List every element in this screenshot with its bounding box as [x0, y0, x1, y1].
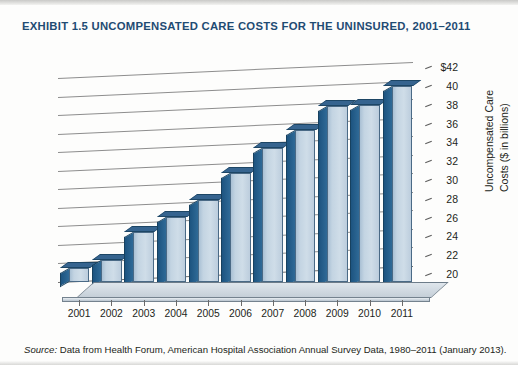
bar — [359, 105, 380, 282]
y-tick-label: 34 — [432, 136, 458, 148]
y-tick-label: 40 — [432, 80, 458, 92]
source-note: Source: Data from Health Forum, American… — [24, 344, 506, 355]
y-tick-mark — [425, 66, 432, 70]
y-tick-mark — [425, 254, 432, 258]
bar — [69, 268, 90, 282]
bar — [295, 130, 316, 282]
chart-figure: 2022242628303234363840$42 20012002200320… — [40, 62, 460, 314]
bar-side-face — [189, 200, 198, 287]
gridline — [58, 80, 413, 97]
y-axis-title-line2: Costs ($ in billions) — [498, 103, 510, 192]
x-tick-mark — [305, 300, 306, 306]
bar — [166, 217, 187, 282]
y-tick-mark — [425, 216, 432, 220]
y-tick-mark — [425, 160, 432, 164]
y-tick-mark — [425, 141, 432, 145]
bar-top-face — [383, 80, 421, 86]
bar-side-face — [318, 106, 327, 287]
bar-front-face — [295, 130, 316, 282]
chart-floor-front — [62, 297, 430, 302]
bar-side-face — [253, 148, 262, 287]
x-tick-label: 2011 — [382, 308, 422, 319]
y-tick-label: 22 — [432, 249, 458, 261]
bar-front-face — [101, 260, 122, 282]
bar — [101, 260, 122, 282]
gridline — [58, 62, 413, 79]
bar — [230, 173, 251, 282]
bar — [133, 232, 154, 282]
x-tick-mark — [208, 300, 209, 306]
page-title: EXHIBIT 1.5 UNCOMPENSATED CARE COSTS FOR… — [22, 20, 471, 32]
plot-area — [58, 78, 413, 298]
y-tick-label: 36 — [432, 118, 458, 130]
x-tick-mark — [370, 300, 371, 306]
bar-side-face — [157, 217, 166, 287]
bar-side-face — [124, 232, 133, 287]
y-axis-title-line1: Uncompensated Care — [483, 90, 495, 192]
bar-front-face — [230, 173, 251, 282]
bar — [262, 148, 283, 282]
bar — [392, 86, 413, 282]
bar-front-face — [69, 268, 90, 282]
bar-side-face — [383, 86, 392, 287]
bar — [327, 106, 348, 282]
source-label: Source: — [24, 344, 57, 355]
bar-front-face — [166, 217, 187, 282]
y-tick-label: 20 — [432, 268, 458, 280]
bar-front-face — [198, 200, 219, 282]
x-tick-mark — [144, 300, 145, 306]
bar-front-face — [262, 148, 283, 282]
bar-front-face — [392, 86, 413, 282]
y-tick-mark — [425, 235, 432, 239]
y-tick-mark — [425, 273, 432, 277]
page-canvas: EXHIBIT 1.5 UNCOMPENSATED CARE COSTS FOR… — [0, 0, 518, 365]
y-tick-mark — [425, 104, 432, 108]
x-tick-mark — [337, 300, 338, 306]
y-tick-label: 26 — [432, 212, 458, 224]
bar-front-face — [133, 232, 154, 282]
bar-side-face — [286, 130, 295, 287]
x-tick-mark — [241, 300, 242, 306]
bar-side-face — [350, 105, 359, 287]
x-tick-mark — [111, 300, 112, 306]
y-tick-label: 24 — [432, 230, 458, 242]
source-text: Data from Health Forum, American Hospita… — [60, 344, 507, 355]
y-tick-mark — [425, 198, 432, 202]
y-tick-mark — [425, 122, 432, 126]
bar-front-face — [359, 105, 380, 282]
scan-edge-top — [0, 0, 518, 5]
bar-front-face — [327, 106, 348, 282]
y-tick-label: 30 — [432, 174, 458, 186]
x-tick-mark — [79, 300, 80, 306]
x-tick-mark — [176, 300, 177, 306]
bar-side-face — [221, 173, 230, 288]
bar — [198, 200, 219, 282]
y-tick-label: 38 — [432, 99, 458, 111]
y-axis-title: Uncompensated Care Costs ($ in billions) — [483, 22, 495, 192]
y-tick-label: 28 — [432, 193, 458, 205]
chart-floor — [76, 282, 449, 298]
x-tick-mark — [402, 300, 403, 306]
y-tick-label: $42 — [432, 61, 458, 73]
bar-side-face — [60, 268, 69, 287]
scan-edge-bottom — [0, 361, 518, 365]
y-tick-mark — [425, 85, 432, 89]
y-tick-label: 32 — [432, 155, 458, 167]
y-tick-mark — [425, 179, 432, 183]
x-tick-mark — [273, 300, 274, 306]
